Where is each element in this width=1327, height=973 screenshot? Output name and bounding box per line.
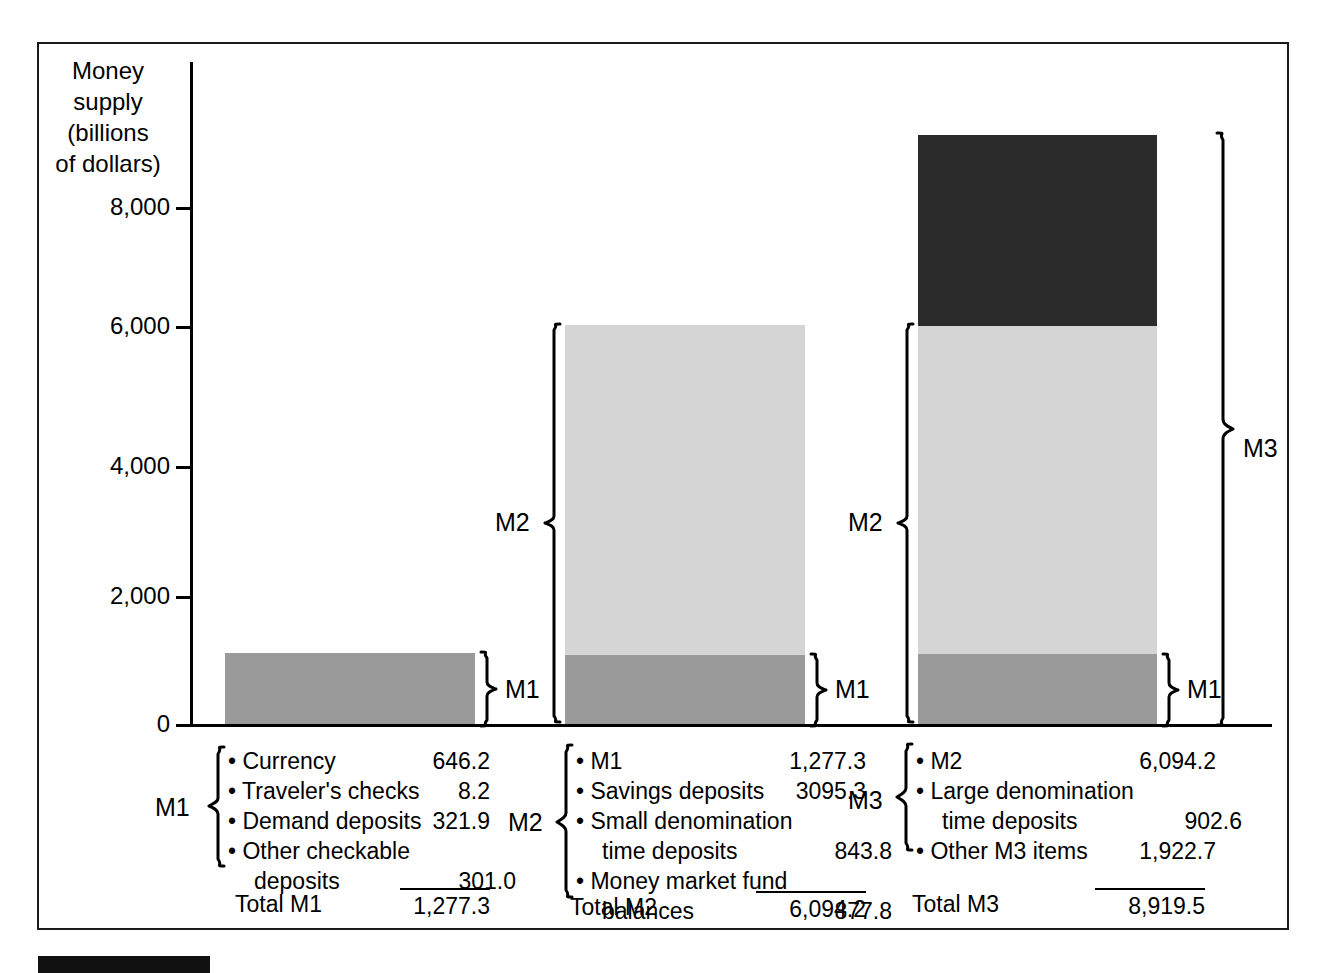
y-tick-8000 bbox=[176, 207, 191, 210]
bar2-brace-m1 bbox=[808, 652, 830, 728]
legend-item-label: • Traveler's checks bbox=[228, 776, 400, 806]
bar3-segment-m1 bbox=[918, 654, 1157, 724]
y-tick-4000 bbox=[176, 466, 191, 469]
y-tick-label-6000: 6,000 bbox=[110, 314, 170, 338]
bar3-brace-m1 bbox=[1160, 652, 1182, 728]
legend-item-label: • Large denomination bbox=[916, 776, 1106, 806]
legend-row: • M2 6,094.2 bbox=[916, 746, 1216, 776]
legend-item-value: 8.2 bbox=[400, 776, 490, 806]
legend-row: • Other M3 items 1,922.7 bbox=[916, 836, 1216, 866]
legend-group-label-m1: M1 bbox=[155, 795, 190, 820]
total-label-m3: Total M3 bbox=[912, 890, 999, 918]
bar1-segment-m1 bbox=[225, 653, 475, 724]
legend-item-label: • M1 bbox=[576, 746, 754, 776]
legend-row: • Large denomination bbox=[916, 776, 1216, 806]
legend-item-value: 902.6 bbox=[1132, 806, 1242, 836]
y-axis-title-line-2: supply bbox=[34, 86, 182, 117]
bar2-brace-label-m2: M2 bbox=[495, 510, 530, 535]
y-tick-label-wrap-6000: 6,000 bbox=[0, 314, 170, 338]
figure-caption-tag bbox=[38, 956, 210, 973]
bar2-brace-m2 bbox=[541, 322, 563, 726]
y-axis-title-line-4: of dollars) bbox=[34, 148, 182, 179]
legend-item-label: • Other M3 items bbox=[916, 836, 1106, 866]
y-tick-2000 bbox=[176, 596, 191, 599]
bar2-segment-m2 bbox=[565, 325, 805, 655]
legend-item-value: 321.9 bbox=[400, 806, 490, 836]
legend-item-label: • Money market fund bbox=[576, 866, 754, 896]
legend-row: time deposits 843.8 bbox=[576, 836, 866, 866]
total-value-m1: 1,277.3 bbox=[400, 888, 490, 920]
legend-row: • Currency 646.2 bbox=[228, 746, 490, 776]
y-tick-label-wrap-4000: 4,000 bbox=[0, 454, 170, 478]
legend-row: time deposits 902.6 bbox=[916, 806, 1216, 836]
y-tick-label-wrap-2000: 2,000 bbox=[0, 584, 170, 608]
legend-item-label: • Small denomination bbox=[576, 806, 754, 836]
legend-brace-m3 bbox=[893, 742, 915, 854]
y-tick-label-wrap-8000: 8,000 bbox=[0, 195, 170, 219]
legend-item-value: 843.8 bbox=[780, 836, 892, 866]
legend-row: • Other checkable bbox=[228, 836, 490, 866]
bar1-brace-m1 bbox=[478, 650, 500, 728]
legend-item-value: 646.2 bbox=[400, 746, 490, 776]
y-axis-title-line-3: (billions bbox=[34, 117, 182, 148]
legend-item-label: time deposits bbox=[576, 836, 780, 866]
legend-row: • M1 1,277.3 bbox=[576, 746, 866, 776]
legend-item-label: time deposits bbox=[916, 806, 1132, 836]
legend-item-label: • Other checkable bbox=[228, 836, 400, 866]
legend-item-value: 1,922.7 bbox=[1106, 836, 1216, 866]
legend-item-value: 6,094.2 bbox=[1106, 746, 1216, 776]
y-tick-label-2000: 2,000 bbox=[110, 584, 170, 608]
total-value-m3: 8,919.5 bbox=[1095, 888, 1205, 920]
bar3-brace-m2 bbox=[894, 322, 916, 726]
legend-brace-m1 bbox=[205, 745, 227, 870]
y-tick-label-4000: 4,000 bbox=[110, 454, 170, 478]
legend-table-m1: • Currency 646.2 • Traveler's checks 8.2… bbox=[228, 746, 490, 896]
legend-brace-m2 bbox=[553, 743, 575, 901]
legend-row: • Traveler's checks 8.2 bbox=[228, 776, 490, 806]
legend-row: • Demand deposits 321.9 bbox=[228, 806, 490, 836]
bar1-brace-label-m1: M1 bbox=[505, 677, 540, 702]
total-label-m2: Total M2 bbox=[570, 893, 657, 921]
y-tick-label-wrap-0: 0 bbox=[0, 712, 170, 736]
legend-group-label-m3: M3 bbox=[848, 788, 883, 813]
total-label-m1: Total M1 bbox=[235, 890, 322, 918]
y-axis-line bbox=[190, 62, 193, 727]
y-tick-0 bbox=[176, 724, 191, 727]
bar3-brace-label-m3: M3 bbox=[1243, 436, 1278, 461]
y-axis-title: Money supply (billions of dollars) bbox=[34, 55, 182, 179]
bar3-segment-m3 bbox=[918, 135, 1157, 326]
bar2-brace-label-m1: M1 bbox=[835, 677, 870, 702]
bar2-segment-m1 bbox=[565, 655, 805, 724]
bar3-brace-m3 bbox=[1213, 131, 1237, 729]
bar3-segment-m2 bbox=[918, 326, 1157, 654]
x-axis-line bbox=[190, 724, 1272, 727]
y-tick-6000 bbox=[176, 326, 191, 329]
bar3-brace-label-m2: M2 bbox=[848, 510, 883, 535]
total-value-m2: 6,094.2 bbox=[756, 891, 866, 923]
y-tick-label-8000: 8,000 bbox=[110, 195, 170, 219]
legend-table-m3: • M2 6,094.2 • Large denomination time d… bbox=[916, 746, 1216, 866]
legend-item-label: • Savings deposits bbox=[576, 776, 754, 806]
legend-item-value: 1,277.3 bbox=[754, 746, 866, 776]
legend-group-label-m2: M2 bbox=[508, 810, 543, 835]
legend-row: • Small denomination bbox=[576, 806, 866, 836]
y-axis-title-line-1: Money bbox=[34, 55, 182, 86]
legend-item-label: • Demand deposits bbox=[228, 806, 400, 836]
legend-item-label: • M2 bbox=[916, 746, 1106, 776]
y-tick-label-0: 0 bbox=[157, 712, 170, 736]
legend-row: • Savings deposits 3095.3 bbox=[576, 776, 866, 806]
legend-item-label: • Currency bbox=[228, 746, 400, 776]
